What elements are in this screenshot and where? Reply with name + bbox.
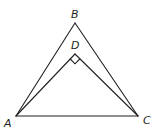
segment-bc — [75, 23, 138, 116]
segment-dc — [75, 54, 138, 116]
right-angle-marker-icon — [70, 59, 80, 64]
label-b: B — [71, 8, 79, 21]
triangle-figure: B D A C — [0, 0, 159, 131]
label-c: C — [143, 114, 151, 127]
segment-ad — [16, 54, 75, 116]
segment-ab — [16, 23, 75, 116]
label-a: A — [3, 117, 12, 130]
geometry-diagram: B D A C — [0, 0, 159, 131]
label-d: D — [71, 39, 79, 52]
